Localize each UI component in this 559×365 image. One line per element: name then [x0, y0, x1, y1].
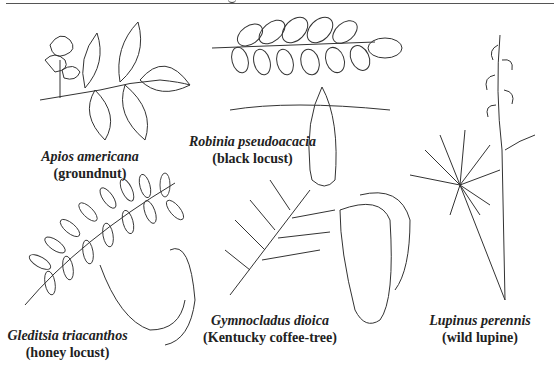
lupinus-perennis-drawing — [410, 35, 535, 300]
scientific-name: Gymnocladus dioica — [200, 312, 340, 329]
common-name: (wild lupine) — [410, 329, 550, 346]
gymnocladus-dioica-drawing — [225, 180, 410, 323]
scientific-name: Apios americana — [30, 148, 150, 165]
label-gymnocladus-dioica: Gymnocladus dioica (Kentucky coffee-tree… — [200, 312, 340, 346]
common-name: (black locust) — [185, 150, 320, 167]
botanical-illustrations — [0, 0, 559, 365]
scientific-name: Robinia pseudoacacia — [185, 133, 320, 150]
common-name: (honey locust) — [5, 344, 130, 361]
common-name: (groundnut) — [30, 165, 150, 182]
label-gleditsia-triacanthos: Gleditsia triacanthos (honey locust) — [5, 327, 130, 361]
common-name: (Kentucky coffee-tree) — [200, 329, 340, 346]
label-lupinus-perennis: Lupinus perennis (wild lupine) — [410, 312, 550, 346]
scientific-name: Gleditsia triacanthos — [5, 327, 130, 344]
gleditsia-triacanthos-drawing — [25, 173, 195, 345]
apios-americana-drawing — [40, 22, 190, 140]
label-robinia-pseudoacacia: Robinia pseudoacacia (black locust) — [185, 133, 320, 167]
label-apios-americana: Apios americana (groundnut) — [30, 148, 150, 182]
scientific-name: Lupinus perennis — [410, 312, 550, 329]
